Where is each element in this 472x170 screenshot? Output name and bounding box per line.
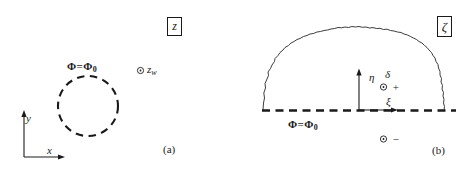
axis-label-x: x [47,145,52,156]
panel-caption-a: (a) [163,144,175,155]
panel-a-graphics [21,67,143,159]
phi-symbol-a2: Φ [83,60,93,72]
boundary-condition-label-b: Φ=Φ0 [288,119,318,132]
axis-xi-arrowhead [391,107,398,112]
label-delta: δ [385,69,390,80]
plane-label-zeta-boxed: ζ [437,16,452,37]
plane-label-z-boxed: z [167,17,182,36]
axis-x-arrowhead [58,154,65,159]
phi-symbol-b2: Φ [304,118,314,130]
axis-eta-arrowhead [356,69,361,76]
figure-linework [0,0,472,170]
boundary-condition-label-a: Φ=Φ0 [67,61,97,74]
marker-label-minus: ☉ − [380,134,399,145]
point-label-zw: ☉zw [137,64,157,77]
phi-symbol-a: Φ [67,60,77,72]
zw-subscript: w [151,68,156,77]
phi-subscript-a: 0 [93,65,97,74]
dome-boundary-curve [263,27,445,111]
marker-label-plus: ☉ + [380,82,399,93]
panel-caption-b: (b) [432,145,445,156]
dashed-circle-boundary [58,76,118,136]
axis-label-y: y [26,113,31,124]
axis-label-eta: η [369,72,374,83]
figure-canvas: z Φ=Φ0 ☉zw y x (a) ζ Φ=Φ0 η ξ δ ☉ + ☉ − … [0,0,472,170]
phi-symbol-b: Φ [288,118,298,130]
axis-label-xi: ξ [386,96,391,107]
phi-subscript-b: 0 [314,123,318,132]
